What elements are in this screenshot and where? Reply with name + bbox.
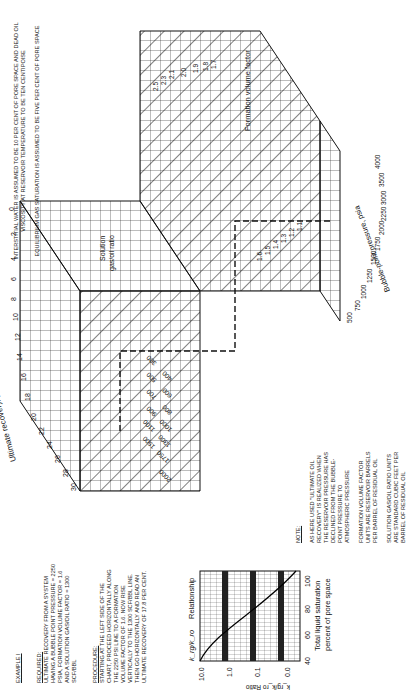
- svg-text:1.3: 1.3: [280, 234, 287, 243]
- svg-text:1.6: 1.6: [256, 252, 263, 261]
- svg-text:24: 24: [46, 441, 53, 449]
- kr-xaxis-2: percent of pore space: [323, 578, 332, 651]
- svg-text:3000: 3000: [380, 190, 387, 205]
- svg-text:0: 0: [8, 207, 15, 211]
- kr-title: Relationship: [187, 578, 196, 619]
- kr-xaxis-1: Total liquid saturation: [313, 581, 322, 651]
- svg-text:1.4: 1.4: [272, 240, 279, 249]
- kr-title-symbol: k_rg/k_ro: [187, 630, 196, 661]
- svg-text:12: 12: [14, 333, 21, 341]
- svg-text:4000: 4000: [374, 154, 381, 169]
- svg-text:16: 16: [20, 373, 27, 381]
- svg-text:30: 30: [70, 483, 77, 491]
- svg-text:26: 26: [54, 455, 61, 463]
- svg-text:2: 2: [10, 232, 17, 236]
- svg-text:10.0: 10.0: [198, 667, 205, 681]
- svg-text:3500: 3500: [378, 172, 385, 187]
- svg-text:28: 28: [62, 469, 69, 477]
- svg-text:0.1: 0.1: [254, 667, 261, 677]
- kr-yaxis: k_rg/k_ro Ratio: [246, 683, 290, 691]
- svg-text:1250: 1250: [366, 268, 373, 283]
- svg-text:1.1: 1.1: [296, 222, 303, 231]
- svg-text:1.7: 1.7: [210, 60, 217, 69]
- svg-text:10: 10: [12, 313, 19, 321]
- svg-text:18: 18: [24, 393, 31, 401]
- svg-text:8: 8: [10, 297, 17, 301]
- svg-text:2.5: 2.5: [152, 82, 159, 91]
- svg-text:2000: 2000: [378, 220, 385, 235]
- fvf-axis-label: Formation volume factor: [243, 50, 252, 131]
- svg-text:1000: 1000: [360, 284, 367, 299]
- svg-text:1.5: 1.5: [264, 246, 271, 255]
- svg-text:60: 60: [304, 631, 311, 639]
- svg-text:2.1: 2.1: [168, 70, 175, 79]
- recovery-axis-label: Ultimate recovery, percent of residual o…: [0, 261, 18, 463]
- svg-text:500: 500: [346, 312, 353, 323]
- svg-text:1.8: 1.8: [202, 62, 209, 71]
- svg-text:1.2: 1.2: [288, 228, 295, 237]
- svg-text:2250: 2250: [380, 206, 387, 221]
- gor-label-1: Solution: [99, 236, 106, 261]
- svg-text:2.0: 2.0: [180, 68, 187, 77]
- svg-text:750: 750: [354, 300, 361, 311]
- svg-text:4: 4: [10, 257, 17, 261]
- svg-text:2.3: 2.3: [160, 76, 167, 85]
- svg-text:40: 40: [304, 657, 311, 665]
- svg-text:0.0: 0.0: [284, 667, 291, 677]
- svg-text:1.0: 1.0: [226, 667, 233, 677]
- svg-text:20: 20: [30, 413, 37, 421]
- svg-text:1.9: 1.9: [192, 64, 199, 73]
- svg-text:22: 22: [38, 427, 45, 435]
- svg-text:100: 100: [304, 575, 311, 587]
- kr-chart: 10.01.00.10.0 406080100 k_rg/k_ro Relati…: [187, 571, 332, 691]
- svg-text:6: 6: [10, 277, 17, 281]
- gor-label-2: gas/oil ratio: [108, 235, 116, 271]
- svg-text:14: 14: [16, 353, 23, 361]
- svg-text:80: 80: [304, 605, 311, 613]
